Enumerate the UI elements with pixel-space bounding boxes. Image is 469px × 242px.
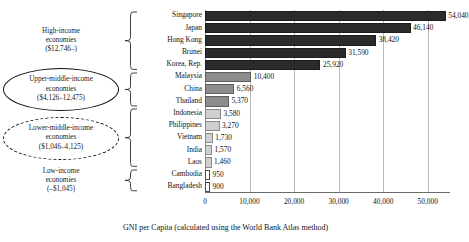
x-axis-line: [205, 192, 450, 193]
bar-value-label: 5,370: [231, 96, 248, 106]
bar-brunei: [205, 48, 346, 58]
bar-indonesia: [205, 109, 221, 119]
bar-value-label: 6,560: [237, 84, 254, 94]
bar-laos: [205, 157, 212, 167]
category-label: Vietnam: [82, 132, 202, 142]
bar-row: 1,570: [205, 145, 450, 155]
bar-value-label: 54,040: [448, 11, 468, 21]
bar-value-label: 38,420: [379, 35, 399, 45]
bar-row: 54,040: [205, 11, 450, 21]
category-label: India: [82, 145, 202, 155]
bar-row: 46,140: [205, 23, 450, 33]
x-tick-label: 30,000: [328, 197, 348, 206]
bar-row: 5,370: [205, 96, 450, 106]
bar-value-label: 900: [213, 182, 224, 192]
bar-bangladesh: [205, 182, 210, 192]
category-label: Laos: [82, 157, 202, 167]
bar-hong-kong: [205, 35, 376, 45]
category-label: Indonesia: [82, 108, 202, 118]
bar-row: 25,920: [205, 60, 450, 70]
bar-row: 900: [205, 182, 450, 192]
bar-india: [205, 145, 212, 155]
category-label: Malaysia: [82, 71, 202, 81]
bar-japan: [205, 23, 411, 33]
category-label: Hong Kong: [82, 35, 202, 45]
bar-value-label: 3,580: [223, 109, 240, 119]
bar-thailand: [205, 96, 229, 106]
category-label: Korea, Rep.: [82, 59, 202, 69]
category-label: Thailand: [82, 96, 202, 106]
bar-vietnam: [205, 133, 213, 143]
plot-area: 54,04046,14038,42031,59025,92010,4006,56…: [205, 10, 450, 193]
bar-cambodia: [205, 170, 210, 180]
category-label: Philippines: [82, 120, 202, 130]
bar-korea-rep: [205, 60, 320, 70]
bar-row: 950: [205, 170, 450, 180]
category-label: Japan: [82, 23, 202, 33]
category-label: Bangladesh: [82, 181, 202, 191]
group-label-line1: Low-income: [43, 167, 80, 175]
bar-row: 10,400: [205, 72, 450, 82]
bar-value-label: 1,570: [214, 145, 231, 155]
category-label: China: [82, 84, 202, 94]
bar-row: 3,270: [205, 121, 450, 131]
x-tick-label: 10,000: [239, 197, 259, 206]
x-tick-label: 20,000: [284, 197, 304, 206]
bar-value-label: 31,590: [348, 48, 368, 58]
x-tick-label: 0: [203, 197, 207, 206]
bar-value-label: 950: [213, 170, 224, 180]
bar-china: [205, 84, 234, 94]
bar-value-label: 3,270: [222, 121, 239, 131]
bar-value-label: 46,140: [413, 23, 433, 33]
bar-value-label: 25,920: [323, 60, 343, 70]
bar-philippines: [205, 121, 220, 131]
category-label: Brunei: [82, 47, 202, 57]
bar-singapore: [205, 11, 446, 21]
x-tick-label: 40,000: [373, 197, 393, 206]
category-label: Cambodia: [82, 169, 202, 179]
category-label: Singapore: [82, 10, 202, 20]
x-tick-label: 50,000: [418, 197, 438, 206]
bar-row: 38,420: [205, 35, 450, 45]
bar-row: 6,560: [205, 84, 450, 94]
bar-value-label: 1,460: [214, 157, 231, 167]
bar-value-label: 10,400: [254, 72, 274, 82]
group-label-line1: High-income: [42, 27, 80, 35]
bar-row: 1,460: [205, 157, 450, 167]
bar-row: 1,730: [205, 133, 450, 143]
category-axis-labels: SingaporeJapanHong KongBruneiKorea, Rep.…: [78, 10, 202, 193]
bar-row: 31,590: [205, 48, 450, 58]
bar-value-label: 1,730: [215, 133, 232, 143]
bar-malaysia: [205, 72, 251, 82]
x-axis-title: GNI per Capita (calculated using the Wor…: [0, 223, 451, 232]
bar-row: 3,580: [205, 109, 450, 119]
